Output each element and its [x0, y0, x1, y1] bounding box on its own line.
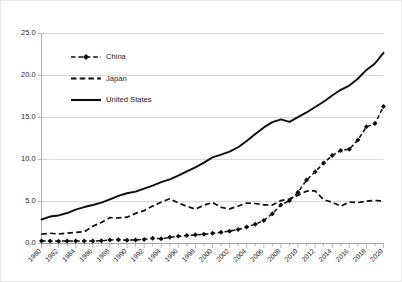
- legend-item-japan[interactable]: Japan: [71, 74, 127, 83]
- x-axis-tick-label: 1986: [78, 247, 94, 263]
- data-point-marker: [107, 238, 112, 243]
- data-point-marker: [321, 161, 326, 166]
- x-axis-ticks-group: [42, 244, 384, 249]
- data-point-marker: [253, 222, 258, 227]
- data-series-group: [39, 53, 386, 244]
- data-point-marker: [82, 238, 87, 243]
- x-axis-tick-label: 1980: [27, 247, 43, 263]
- data-point-marker: [150, 236, 155, 241]
- x-axis-tick-label: 2016: [334, 247, 350, 263]
- data-point-marker: [236, 227, 241, 232]
- data-point-marker: [116, 237, 121, 242]
- data-point-marker: [142, 237, 147, 242]
- x-axis-tick-label: 1996: [163, 247, 179, 263]
- series-line: [42, 107, 384, 242]
- gridlines-group: [42, 34, 384, 244]
- data-point-marker: [159, 236, 164, 241]
- chart-legend: ChinaJapanUnited States: [71, 52, 152, 104]
- data-point-marker: [48, 239, 53, 244]
- data-point-marker: [210, 231, 215, 236]
- y-axis-tick-label: 20.0: [21, 70, 35, 79]
- data-point-marker: [73, 238, 78, 243]
- data-point-marker: [125, 238, 130, 243]
- data-point-marker: [193, 232, 198, 237]
- legend-marker: [83, 54, 89, 60]
- series-china: [39, 104, 386, 244]
- x-axis-tick-label: 2018: [351, 247, 367, 263]
- y-axis-tick-label: 0.0: [25, 238, 35, 247]
- x-axis-tick-label: 2014: [317, 247, 333, 263]
- data-point-marker: [90, 238, 95, 243]
- x-axis-tick-label: 2004: [232, 247, 248, 263]
- y-axis-tick-label: 5.0: [25, 196, 35, 205]
- series-japan: [42, 191, 384, 234]
- x-axis-tick-label: 1988: [95, 247, 111, 263]
- x-axis-tick-label: 2000: [198, 247, 214, 263]
- legend-label: Japan: [106, 74, 127, 83]
- y-axis-tick-label: 15.0: [21, 112, 35, 121]
- x-axis-tick-label: 2010: [283, 247, 299, 263]
- data-point-marker: [133, 237, 138, 242]
- data-point-marker: [176, 234, 181, 239]
- line-chart: 0.05.010.015.020.025.0 19801982198419861…: [1, 1, 402, 282]
- legend-label: China: [106, 52, 127, 61]
- data-point-marker: [56, 239, 61, 244]
- y-axis-tick-label: 25.0: [21, 28, 35, 37]
- y-axis-tick-label: 10.0: [21, 154, 35, 163]
- data-point-marker: [372, 121, 377, 126]
- x-axis-tick-label: 1998: [180, 247, 196, 263]
- y-axis-labels-group: 0.05.010.015.020.025.0: [21, 28, 35, 247]
- x-axis-tick-label: 1984: [61, 247, 77, 263]
- data-point-marker: [381, 104, 386, 109]
- x-axis-labels-group: 1980198219841986198819901992199419961998…: [27, 247, 385, 263]
- chart-figure: 0.05.010.015.020.025.0 19801982198419861…: [0, 0, 402, 282]
- x-axis-tick-label: 2002: [215, 247, 231, 263]
- series-line: [42, 191, 384, 234]
- x-axis-tick-label: 2008: [266, 247, 282, 263]
- data-point-marker: [201, 232, 206, 237]
- legend-item-united-states[interactable]: United States: [71, 95, 152, 104]
- data-point-marker: [99, 238, 104, 243]
- x-axis-tick-label: 2006: [249, 247, 265, 263]
- legend-label: United States: [106, 95, 152, 104]
- x-axis-tick-label: 1990: [112, 247, 128, 263]
- x-axis-tick-label: 2012: [300, 247, 316, 263]
- x-axis-tick-label: 1992: [129, 247, 145, 263]
- data-point-marker: [167, 235, 172, 240]
- legend-item-china[interactable]: China: [71, 52, 127, 61]
- x-axis-tick-label: 2020: [369, 247, 385, 263]
- data-point-marker: [219, 230, 224, 235]
- data-point-marker: [227, 229, 232, 234]
- data-point-marker: [65, 238, 70, 243]
- x-axis-tick-label: 1982: [44, 247, 60, 263]
- y-axis-ticks-group: [38, 34, 42, 244]
- data-point-marker: [184, 233, 189, 238]
- data-point-marker: [244, 225, 249, 230]
- x-axis-tick-label: 1994: [146, 247, 162, 263]
- data-point-marker: [39, 238, 44, 243]
